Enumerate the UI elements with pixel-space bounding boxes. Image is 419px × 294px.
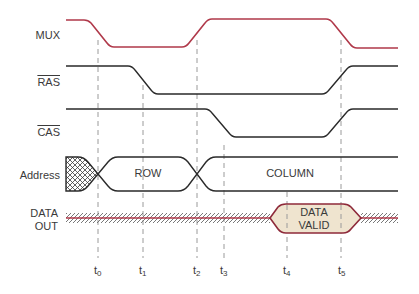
signal-label-data-out: DATA OUT xyxy=(0,207,58,233)
address-column-label: COLUMN xyxy=(255,167,325,180)
signal-label-address: Address xyxy=(0,169,60,182)
signal-label-mux: MUX xyxy=(0,29,60,42)
time-marker-t4: t4 xyxy=(283,264,291,280)
ras-waveform xyxy=(66,66,398,94)
data-valid-label: DATA VALID xyxy=(289,206,339,232)
cas-waveform xyxy=(66,109,398,137)
timing-diagram: MUX RAS CAS Address DATA OUT ROW COLUMN … xyxy=(0,0,419,294)
timing-diagram-svg xyxy=(0,0,419,294)
signal-label-cas: CAS xyxy=(0,126,60,139)
time-marker-t2: t2 xyxy=(193,264,201,280)
mux-waveform xyxy=(66,19,398,48)
address-row-label: ROW xyxy=(123,167,173,180)
address-invalid-region xyxy=(66,157,98,191)
time-marker-t0: t0 xyxy=(94,264,102,280)
time-marker-t1: t1 xyxy=(139,264,147,280)
time-marker-t3: t3 xyxy=(220,264,228,280)
signal-label-ras: RAS xyxy=(0,76,60,89)
time-marker-t5: t5 xyxy=(338,264,346,280)
